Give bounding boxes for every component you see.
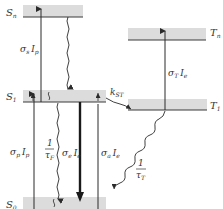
label-sigma-s-ip: σsIp <box>20 44 39 56</box>
svg-text:τF: τF <box>45 150 55 161</box>
wavy-sn-to-s1 <box>67 17 69 89</box>
label-tn: Tn <box>210 27 221 39</box>
svg-text:τT: τT <box>136 170 146 181</box>
label-sigma-a-ie: σaIe <box>101 148 120 159</box>
level-tn <box>128 28 206 40</box>
label-1-over-tau-f: 1 τF <box>45 138 55 161</box>
label-s0: S0 <box>6 199 17 209</box>
wavy-s1-to-s0-fluorescence <box>57 103 59 199</box>
label-k-st: kST <box>110 87 125 98</box>
arrow-isc-s1-to-t1 <box>106 98 131 109</box>
svg-text:1: 1 <box>138 158 144 168</box>
label-sigma-e-ie: σeIe <box>62 148 81 159</box>
label-1-over-tau-t: 1 τT <box>136 158 146 181</box>
label-sigma-t-ie: σTIe <box>168 68 188 79</box>
level-s1 <box>23 90 106 102</box>
level-s0 <box>23 197 106 209</box>
level-sn <box>23 5 83 17</box>
label-t1: T1 <box>210 100 221 112</box>
label-sigma-p-ip: σpIp <box>10 147 30 159</box>
jablonski-diagram: Sn S1 S0 Tn T1 σsIp σpIp 1 τF σeIe σaIe … <box>0 0 223 209</box>
label-sn: Sn <box>6 7 17 19</box>
label-s1: S1 <box>6 91 17 103</box>
svg-text:1: 1 <box>47 138 53 148</box>
level-t1 <box>128 99 207 110</box>
